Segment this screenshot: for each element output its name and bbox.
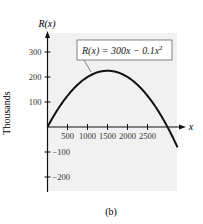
y-tick-label: −200 — [53, 172, 71, 182]
y-tick-label: −100 — [53, 147, 71, 157]
y-tick-label: 100 — [29, 97, 42, 107]
figure-caption: (b) — [105, 206, 117, 218]
x-tick-label: 500 — [61, 131, 74, 141]
x-tick-label: 1000 — [79, 131, 96, 141]
equation-exponent: 2 — [159, 44, 163, 52]
y-axis-label: R(x) — [37, 18, 56, 30]
x-tick-label: 2500 — [139, 131, 156, 141]
x-axis-arrow-icon — [179, 125, 186, 130]
x-tick-label: 1500 — [99, 131, 116, 141]
units-label: Thousands — [1, 91, 12, 134]
revenue-chart: 5001000150020002500300200100−100−200 R(x… — [0, 0, 203, 224]
equation-text: R(x) = 300x − 0.1x2 — [81, 44, 163, 57]
y-tick-label: 200 — [29, 72, 42, 82]
y-tick-label: 300 — [29, 47, 42, 57]
x-axis-label: x — [188, 121, 194, 132]
x-tick-label: 2000 — [119, 131, 136, 141]
equation-body: R(x) = 300x − 0.1x — [81, 45, 160, 57]
